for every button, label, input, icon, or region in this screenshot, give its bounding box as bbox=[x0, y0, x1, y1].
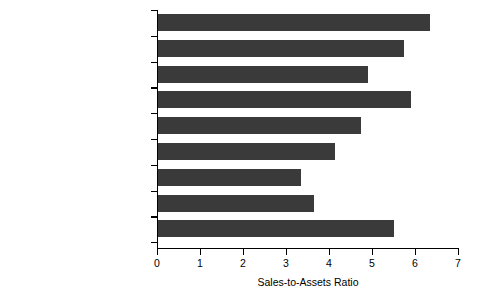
bar bbox=[157, 169, 301, 186]
category-axis-tick bbox=[151, 87, 158, 88]
plot-area: Professional ServicesBusiness ServicesIn… bbox=[157, 10, 458, 248]
category-axis-tick bbox=[151, 113, 158, 114]
bar-row: Construction bbox=[157, 216, 458, 242]
category-axis-tick bbox=[151, 10, 158, 11]
bar-row: Other Manufacturing bbox=[157, 165, 458, 191]
category-axis-tick bbox=[151, 139, 158, 140]
value-axis-tick-label: 0 bbox=[145, 256, 169, 270]
category-axis-tick bbox=[151, 191, 158, 192]
value-axis-tick bbox=[415, 249, 416, 255]
category-axis-tick bbox=[151, 36, 158, 37]
bar bbox=[157, 195, 314, 212]
value-axis-tick bbox=[200, 249, 201, 255]
value-axis-tick bbox=[286, 249, 287, 255]
bar-row: Retail bbox=[157, 87, 458, 113]
bar bbox=[157, 117, 361, 134]
bar-row: Transportation bbox=[157, 139, 458, 165]
value-axis-tick bbox=[157, 249, 158, 255]
value-axis-tick bbox=[329, 249, 330, 255]
bar-row: Primary Manufacturing bbox=[157, 191, 458, 217]
value-axis-tick bbox=[372, 249, 373, 255]
value-axis-tick-label: 2 bbox=[231, 256, 255, 270]
x-axis-title: Sales-to-Assets Ratio bbox=[157, 276, 459, 289]
category-axis-tick bbox=[151, 165, 158, 166]
bar-row: Business Services bbox=[157, 36, 458, 62]
bar bbox=[157, 66, 368, 83]
bar bbox=[157, 220, 394, 237]
bar-row: Professional Services bbox=[157, 10, 458, 36]
bar bbox=[157, 14, 430, 31]
bar bbox=[157, 143, 335, 160]
bar-row: Wholesale bbox=[157, 113, 458, 139]
value-axis-tick-label: 7 bbox=[446, 256, 470, 270]
bar bbox=[157, 40, 404, 57]
value-axis-tick bbox=[458, 249, 459, 255]
value-axis-tick-label: 3 bbox=[274, 256, 298, 270]
bar-chart: Professional ServicesBusiness ServicesIn… bbox=[0, 0, 486, 298]
category-axis-line bbox=[157, 10, 158, 249]
value-axis-tick-label: 5 bbox=[360, 256, 384, 270]
category-axis-tick bbox=[151, 216, 158, 217]
value-axis-line bbox=[157, 248, 459, 249]
value-axis-tick-label: 1 bbox=[188, 256, 212, 270]
bar bbox=[157, 91, 411, 108]
value-axis-tick-label: 6 bbox=[403, 256, 427, 270]
category-axis-tick bbox=[151, 242, 158, 243]
bar-row: Insurance and Real Estate bbox=[157, 62, 458, 88]
value-axis-tick-label: 4 bbox=[317, 256, 341, 270]
category-axis-tick bbox=[151, 62, 158, 63]
value-axis-tick bbox=[243, 249, 244, 255]
